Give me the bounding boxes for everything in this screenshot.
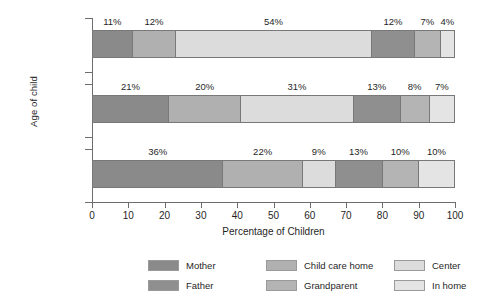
legend-label: Center xyxy=(432,260,461,271)
legend-label: In home xyxy=(432,280,466,291)
x-axis-tick-label: 80 xyxy=(362,210,402,221)
x-axis-tick xyxy=(310,202,311,208)
x-axis-tick xyxy=(201,202,202,208)
bar-segment-value-label: 11% xyxy=(103,16,121,28)
legend-item[interactable]: Child care home xyxy=(266,260,394,271)
bar-row: 36%22%9%13%10%10% xyxy=(92,160,455,188)
bar-segment[interactable]: 22% xyxy=(222,160,303,188)
x-axis-tick-label: 40 xyxy=(217,210,257,221)
bar-segment-value-label: 9% xyxy=(312,146,326,158)
x-axis-tick xyxy=(274,202,275,208)
legend-label: Grandparent xyxy=(304,280,357,291)
bar-segment[interactable]: 36% xyxy=(92,160,223,188)
y-axis-tick xyxy=(85,84,92,85)
bar-segment-value-label: 54% xyxy=(264,16,283,28)
bar-segment[interactable]: 31% xyxy=(240,95,353,123)
bar-segment[interactable]: 11% xyxy=(92,30,133,58)
bar-segment-value-label: 10% xyxy=(391,146,410,158)
y-axis-tick xyxy=(85,18,92,19)
legend-item[interactable]: Father xyxy=(148,280,266,291)
y-axis-tick xyxy=(85,149,92,150)
bar-segment[interactable]: 21% xyxy=(92,95,169,123)
legend-label: Father xyxy=(186,280,213,291)
y-axis-title: Age of child xyxy=(28,47,39,157)
bar-segment[interactable]: 20% xyxy=(168,95,241,123)
bar-segment-value-label: 36% xyxy=(148,146,167,158)
legend-swatch xyxy=(148,280,179,291)
bar-segment[interactable]: 10% xyxy=(418,160,455,188)
bar-segment-value-label: 12% xyxy=(145,16,164,28)
legend-item[interactable]: Center xyxy=(394,260,466,271)
x-axis-tick-label: 0 xyxy=(72,210,112,221)
bar-segment[interactable]: 9% xyxy=(302,160,336,188)
x-axis-tick-label: 30 xyxy=(181,210,221,221)
legend-item[interactable]: In home xyxy=(394,280,466,291)
legend-item[interactable]: Mother xyxy=(148,260,266,271)
bar-segment[interactable]: 4% xyxy=(440,30,455,58)
x-axis-tick-label: 50 xyxy=(254,210,294,221)
x-axis-tick xyxy=(346,202,347,208)
bar-segment[interactable]: 12% xyxy=(132,30,176,58)
x-axis-tick-label: 90 xyxy=(399,210,439,221)
bar-segment-value-label: 21% xyxy=(121,81,140,93)
x-axis-tick-label: 100 xyxy=(435,210,475,221)
bar-segment[interactable]: 13% xyxy=(335,160,383,188)
x-axis-tick xyxy=(165,202,166,208)
legend-swatch xyxy=(394,260,425,271)
x-axis-tick-label: 60 xyxy=(290,210,330,221)
bar-segment-value-label: 4% xyxy=(440,16,454,28)
bar-segment-value-label: 12% xyxy=(383,16,402,28)
bar-segment[interactable]: 7% xyxy=(414,30,440,58)
bar-segment-value-label: 22% xyxy=(253,146,272,158)
stacked-bar-chart: Age of child 4½ Years11%12%54%12%7%4%3 Y… xyxy=(0,0,482,308)
legend-label: Child care home xyxy=(304,260,373,271)
y-axis-tick xyxy=(85,137,92,138)
x-axis-tick xyxy=(128,202,129,208)
x-axis-tick xyxy=(92,202,93,208)
legend-swatch xyxy=(266,260,297,271)
x-axis-tick xyxy=(455,202,456,208)
x-axis-tick xyxy=(382,202,383,208)
x-axis-tick-label: 70 xyxy=(326,210,366,221)
bar-row: 11%12%54%12%7%4% xyxy=(92,30,455,58)
bar-segment-value-label: 7% xyxy=(435,81,449,93)
bar-segment[interactable]: 7% xyxy=(429,95,455,123)
bar-segment[interactable]: 12% xyxy=(371,30,415,58)
bar-segment-value-label: 7% xyxy=(420,16,434,28)
bar-row: 21%20%31%13%8%7% xyxy=(92,95,455,123)
legend-swatch xyxy=(394,280,425,291)
bar-segment-value-label: 8% xyxy=(408,81,422,93)
x-axis-tick xyxy=(237,202,238,208)
legend-swatch xyxy=(148,260,179,271)
bar-segment-value-label: 10% xyxy=(427,146,446,158)
chart-legend: MotherChild care homeCenterFatherGrandpa… xyxy=(148,255,448,295)
bar-segment[interactable]: 8% xyxy=(400,95,430,123)
y-axis-tick xyxy=(85,202,92,203)
x-axis-tick-label: 10 xyxy=(108,210,148,221)
legend-item[interactable]: Grandparent xyxy=(266,280,394,291)
legend-label: Mother xyxy=(186,260,216,271)
bar-segment[interactable]: 54% xyxy=(175,30,372,58)
bar-segment-value-label: 20% xyxy=(195,81,214,93)
bar-segment-value-label: 13% xyxy=(367,81,386,93)
bar-segment[interactable]: 13% xyxy=(353,95,401,123)
bar-segment-value-label: 13% xyxy=(349,146,368,158)
y-axis-tick xyxy=(85,72,92,73)
bar-segment-value-label: 31% xyxy=(288,81,307,93)
x-axis-title: Percentage of Children xyxy=(92,226,455,237)
legend-swatch xyxy=(266,280,297,291)
x-axis-tick xyxy=(419,202,420,208)
x-axis-tick-label: 20 xyxy=(145,210,185,221)
bar-segment[interactable]: 10% xyxy=(382,160,419,188)
